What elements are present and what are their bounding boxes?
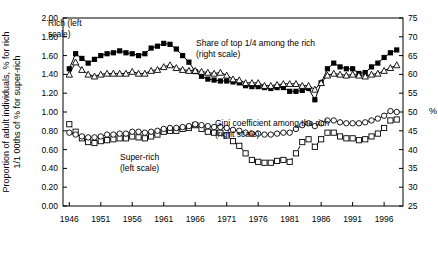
y-axis-right-tick-label: 60: [408, 69, 418, 79]
y-axis-right-tick-label: 75: [408, 13, 418, 23]
y-axis-left-tick-label: 1.00: [41, 107, 58, 117]
x-axis-tick-label: 1976: [249, 214, 268, 224]
y-axis-right-tick-label: 35: [408, 163, 418, 173]
super-rich-label: Super-rich(left scale): [120, 152, 159, 173]
y-axis-right-tick-label: 40: [408, 145, 418, 155]
y-axis-left-tick-label: 0.80: [41, 126, 58, 136]
y-axis-right-tick-label: 45: [408, 126, 418, 136]
x-axis-tick-label: 1991: [343, 214, 362, 224]
y-axis-left-tick-label: 1.60: [41, 51, 58, 61]
series-1: [66, 59, 400, 92]
y-axis-right-tick-label: 70: [408, 32, 418, 42]
x-axis-tick-label: 1971: [217, 214, 236, 224]
x-axis-tick-label: 1966: [186, 214, 205, 224]
rich-label: Rich (leftscale): [48, 18, 82, 39]
x-axis-tick-label: 1946: [60, 214, 79, 224]
x-axis-tick-label: 1951: [91, 214, 110, 224]
y-axis-left-title: Proportion of adult individuals, % for r…: [1, 31, 22, 192]
y-axis-left-tick-label: 1.40: [41, 69, 58, 79]
y-axis-left-tick-label: 0.20: [41, 182, 58, 192]
y-axis-left-tick-label: 1.20: [41, 88, 58, 98]
y-axis-left-tick-label: 0.00: [41, 201, 58, 211]
y-axis-right-title: %: [429, 106, 437, 116]
x-axis-tick-label: 1961: [154, 214, 173, 224]
x-axis-tick-label: 1981: [280, 214, 299, 224]
x-axis-tick-label: 1986: [312, 214, 331, 224]
line-chart: 0.000.200.400.600.801.001.201.401.601.80…: [0, 0, 438, 258]
x-axis-tick-label: 1956: [123, 214, 142, 224]
y-axis-right-tick-label: 30: [408, 182, 418, 192]
y-axis-left-tick-label: 0.60: [41, 145, 58, 155]
y-axis-left-tick-label: 0.40: [41, 163, 58, 173]
x-axis-tick-label: 1996: [375, 214, 394, 224]
y-axis-right-tick-label: 55: [408, 88, 418, 98]
share-top-quarter-label: Share of top 1/4 among the rich(right sc…: [196, 38, 315, 59]
y-axis-right-tick-label: 65: [408, 51, 418, 61]
y-axis-right-tick-label: 25: [408, 201, 418, 211]
y-axis-right-tick-label: 50: [408, 107, 418, 117]
chart-container: 0.000.200.400.600.801.001.201.401.601.80…: [0, 0, 438, 258]
